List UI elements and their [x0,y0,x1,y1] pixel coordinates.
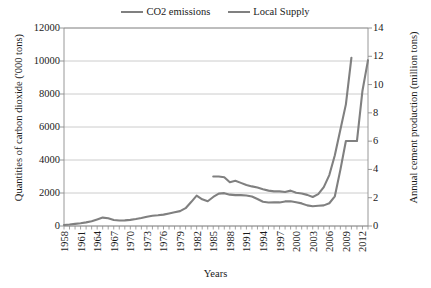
plot-area [0,0,431,288]
series-line-co2-emissions [64,60,368,225]
chart-container: CO2 emissions Local Supply Quantities of… [0,0,431,288]
